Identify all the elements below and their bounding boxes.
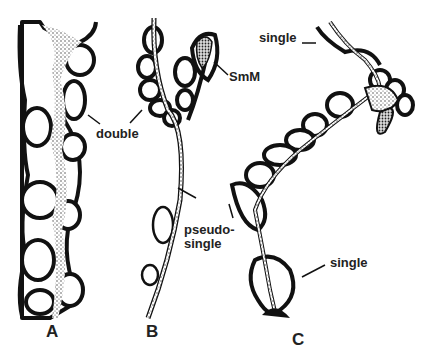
label-pseudo-single-line1: pseudo-: [184, 223, 235, 237]
label-smm: SmM: [229, 70, 260, 84]
panel-label-c: C: [292, 330, 304, 350]
panel-label-a: A: [46, 322, 58, 342]
panel-label-b: B: [146, 322, 158, 342]
label-pseudo-single-line2: single: [184, 237, 222, 251]
label-double: double: [96, 127, 139, 141]
diagram-figure: double SmM pseudo- single single single …: [0, 0, 434, 356]
label-single-bottom: single: [330, 256, 368, 270]
label-single-top: single: [259, 31, 297, 45]
diagram-drawing: [0, 0, 434, 356]
